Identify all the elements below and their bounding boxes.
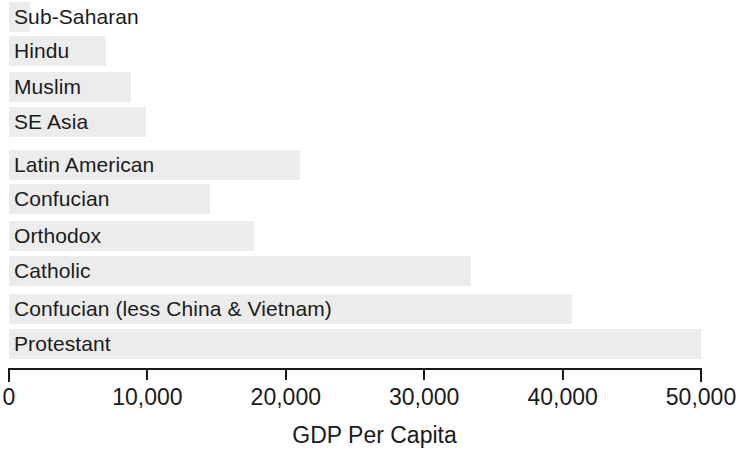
x-axis-tick: [700, 368, 702, 382]
x-axis-tick: [285, 368, 287, 380]
bar-row: SE Asia: [0, 107, 749, 137]
bar-category-label: Catholic: [14, 256, 91, 286]
bar-category-label: SE Asia: [14, 107, 88, 137]
bar-row: Latin American: [0, 150, 749, 180]
bar-row: Sub-Saharan: [0, 2, 749, 32]
x-axis-tick-label: 10,000: [112, 384, 182, 411]
bar-category-label: Muslim: [14, 72, 81, 102]
x-axis-tick-label: 50,000: [666, 384, 736, 411]
x-axis-title: GDP Per Capita: [0, 422, 749, 449]
x-axis-tick: [8, 368, 10, 382]
chart-plot-area: Sub-SaharanHinduMuslimSE AsiaLatin Ameri…: [0, 0, 749, 362]
bar-category-label: Confucian (less China & Vietnam): [14, 294, 332, 324]
x-axis-tick-label: 20,000: [251, 384, 321, 411]
bar-row: Muslim: [0, 72, 749, 102]
bar-row: Catholic: [0, 256, 749, 286]
bar-category-label: Protestant: [14, 329, 111, 359]
bar-category-label: Sub-Saharan: [14, 2, 139, 32]
bar-row: Confucian: [0, 184, 749, 214]
bar-row: Protestant: [0, 329, 749, 359]
bar-category-label: Hindu: [14, 36, 69, 66]
x-axis-tick-label: 30,000: [389, 384, 459, 411]
bar-category-label: Latin American: [14, 150, 154, 180]
x-axis-tick: [423, 368, 425, 380]
bar-rect: [9, 329, 701, 359]
bar-row: Hindu: [0, 36, 749, 66]
x-axis-tick-label: 0: [3, 384, 16, 411]
x-axis-line: [9, 368, 701, 370]
bar-category-label: Orthodox: [14, 221, 101, 251]
x-axis-tick-label: 40,000: [527, 384, 597, 411]
bar-row: Confucian (less China & Vietnam): [0, 294, 749, 324]
bar-category-label: Confucian: [14, 184, 109, 214]
gdp-per-capita-bar-chart: Sub-SaharanHinduMuslimSE AsiaLatin Ameri…: [0, 0, 749, 462]
x-axis: 010,00020,00030,00040,00050,000 GDP Per …: [0, 362, 749, 462]
bar-row: Orthodox: [0, 221, 749, 251]
x-axis-tick: [562, 368, 564, 380]
x-axis-tick: [146, 368, 148, 380]
